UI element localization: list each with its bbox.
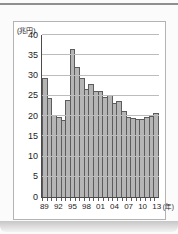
x-tick-label-07: 07 xyxy=(124,203,133,211)
x-tick-label-89: 89 xyxy=(40,203,49,211)
plot-area xyxy=(41,35,159,198)
gridline-35 xyxy=(42,54,159,55)
x-tick-label-13: 13 xyxy=(152,203,161,211)
y-tick-label-40: 40 xyxy=(14,31,38,40)
y-tick-label-10: 10 xyxy=(14,152,38,161)
gridline-5 xyxy=(42,176,159,177)
x-tick-label-95: 95 xyxy=(68,203,77,211)
x-tick-label-92: 92 xyxy=(54,203,63,211)
gridline-20 xyxy=(42,115,159,116)
y-tick-label-35: 35 xyxy=(14,51,38,60)
y-tick-label-0: 0 xyxy=(14,193,38,202)
page-bottom-edge xyxy=(0,221,178,232)
page-top-rule xyxy=(0,3,178,5)
y-tick-label-20: 20 xyxy=(14,112,38,121)
x-axis-ticks xyxy=(42,198,159,201)
x-tick-label-01: 01 xyxy=(96,203,105,211)
chart-frame: (兆円) 4035302520151050899295980104071013(… xyxy=(13,21,166,220)
gridline-15 xyxy=(42,135,159,136)
x-tick-label-98: 98 xyxy=(82,203,91,211)
gridline-10 xyxy=(42,156,159,157)
x-axis-unit-label: (年) xyxy=(163,203,174,211)
y-tick-label-25: 25 xyxy=(14,91,38,100)
gridline-30 xyxy=(42,75,159,76)
gridline-40 xyxy=(42,34,159,35)
bar-series xyxy=(42,35,159,197)
y-tick-label-30: 30 xyxy=(14,71,38,80)
x-tick-label-10: 10 xyxy=(138,203,147,211)
x-tick-label-04: 04 xyxy=(110,203,119,211)
y-tick-label-15: 15 xyxy=(14,132,38,141)
gridline-25 xyxy=(42,95,159,96)
y-tick-label-5: 5 xyxy=(14,172,38,181)
